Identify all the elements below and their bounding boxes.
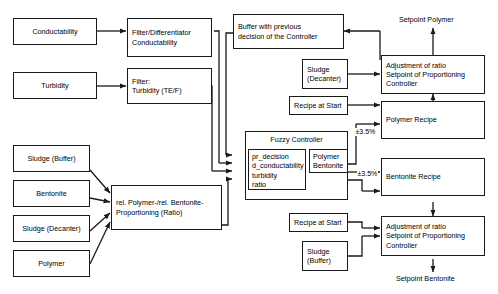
node-bentonite-left[interactable]: Bentonite [13,180,90,207]
node-recipe-at-start-top-label: Recipe at Start [294,101,342,110]
fc-input-pr-decision: pr_decision [252,152,302,161]
fuzzy-controller-inputs: pr_decision d_conductability turbidity r… [248,149,306,190]
node-fuzzy-controller-title: Fuzzy Controller [246,135,347,144]
node-sludge-buffer-right-label: Sludge (Buffer) [307,247,331,265]
fc-input-d-conductability: d_conductability [252,161,302,170]
fc-input-ratio: ratio [252,180,302,189]
label-tolerance-polymer: ±3.5% [355,128,376,136]
node-recipe-at-start-bottom[interactable]: Recipe at Start [289,213,348,232]
node-sludge-decanter-left[interactable]: Sludge (Decanter) [13,215,90,242]
node-conductability-label: Conductability [32,27,77,36]
node-sludge-decanter-left-label: Sludge (Decanter) [22,224,80,233]
node-sludge-decanter-right-label: Sludge (Decanter) [307,65,341,83]
node-adjustment-ratio-polymer[interactable]: Adjustment of ratio Setpoint of Proporti… [381,55,485,94]
node-ratio-proportioning[interactable]: rel. Polymer-/rel. Bentonite- Proportion… [111,185,222,230]
node-adjustment-ratio-polymer-label: Adjustment of ratio Setpoint of Proporti… [386,61,465,89]
node-turbidity-label: Turbidity [41,81,68,90]
node-filter-turbidity[interactable]: Filter: Turbidity (TE/F) [127,68,212,104]
node-turbidity[interactable]: Turbidity [13,72,97,99]
node-polymer-left[interactable]: Polymer [13,250,90,277]
node-recipe-at-start-top[interactable]: Recipe at Start [289,96,348,115]
node-ratio-proportioning-label: rel. Polymer-/rel. Bentonite- Proportion… [116,198,203,216]
diagram-canvas: Conductability Turbidity Filter/Differen… [0,0,498,294]
node-sludge-buffer-left[interactable]: Sludge (Buffer) [13,145,90,172]
fc-output-label: Polymer Bentonite [313,152,344,171]
node-sludge-decanter-right[interactable]: Sludge (Decanter) [302,59,348,89]
node-filter-turbidity-label: Filter: Turbidity (TE/F) [132,77,182,95]
label-setpoint-bentonite: Setpoint Bentonite [396,274,455,283]
node-bentonite-left-label: Bentonite [36,189,66,198]
node-buffer-previous-decision[interactable]: Buffer with previous decision of the Con… [233,14,344,49]
node-bentonite-recipe[interactable]: Bentonite Recipe [381,158,485,196]
node-buffer-previous-decision-label: Buffer with previous decision of the Con… [238,22,318,40]
fc-input-turbidity: turbidity [252,171,302,180]
label-setpoint-polymer: Setpoint Polymer [399,15,454,24]
node-polymer-recipe[interactable]: Polymer Recipe [381,101,485,139]
node-bentonite-recipe-label: Bentonite Recipe [386,172,441,181]
node-polymer-left-label: Polymer [38,259,64,268]
fuzzy-controller-output-polymer-bentonite: Polymer Bentonite [309,149,348,173]
node-conductability[interactable]: Conductability [13,18,97,45]
node-polymer-recipe-label: Polymer Recipe [386,115,437,124]
node-filter-differentiator-conductability[interactable]: Filter/Differentiator Conductability [127,18,212,57]
node-adjustment-ratio-bentonite-label: Adjustment of ratio Setpoint of Proporti… [386,222,465,250]
label-tolerance-bentonite: ±3.5% [357,170,378,178]
node-adjustment-ratio-bentonite[interactable]: Adjustment of ratio Setpoint of Proporti… [381,216,485,256]
node-sludge-buffer-left-label: Sludge (Buffer) [27,154,75,163]
node-filter-differentiator-conductability-label: Filter/Differentiator Conductability [132,28,191,46]
node-recipe-at-start-bottom-label: Recipe at Start [294,218,342,227]
node-sludge-buffer-right[interactable]: Sludge (Buffer) [302,241,348,271]
